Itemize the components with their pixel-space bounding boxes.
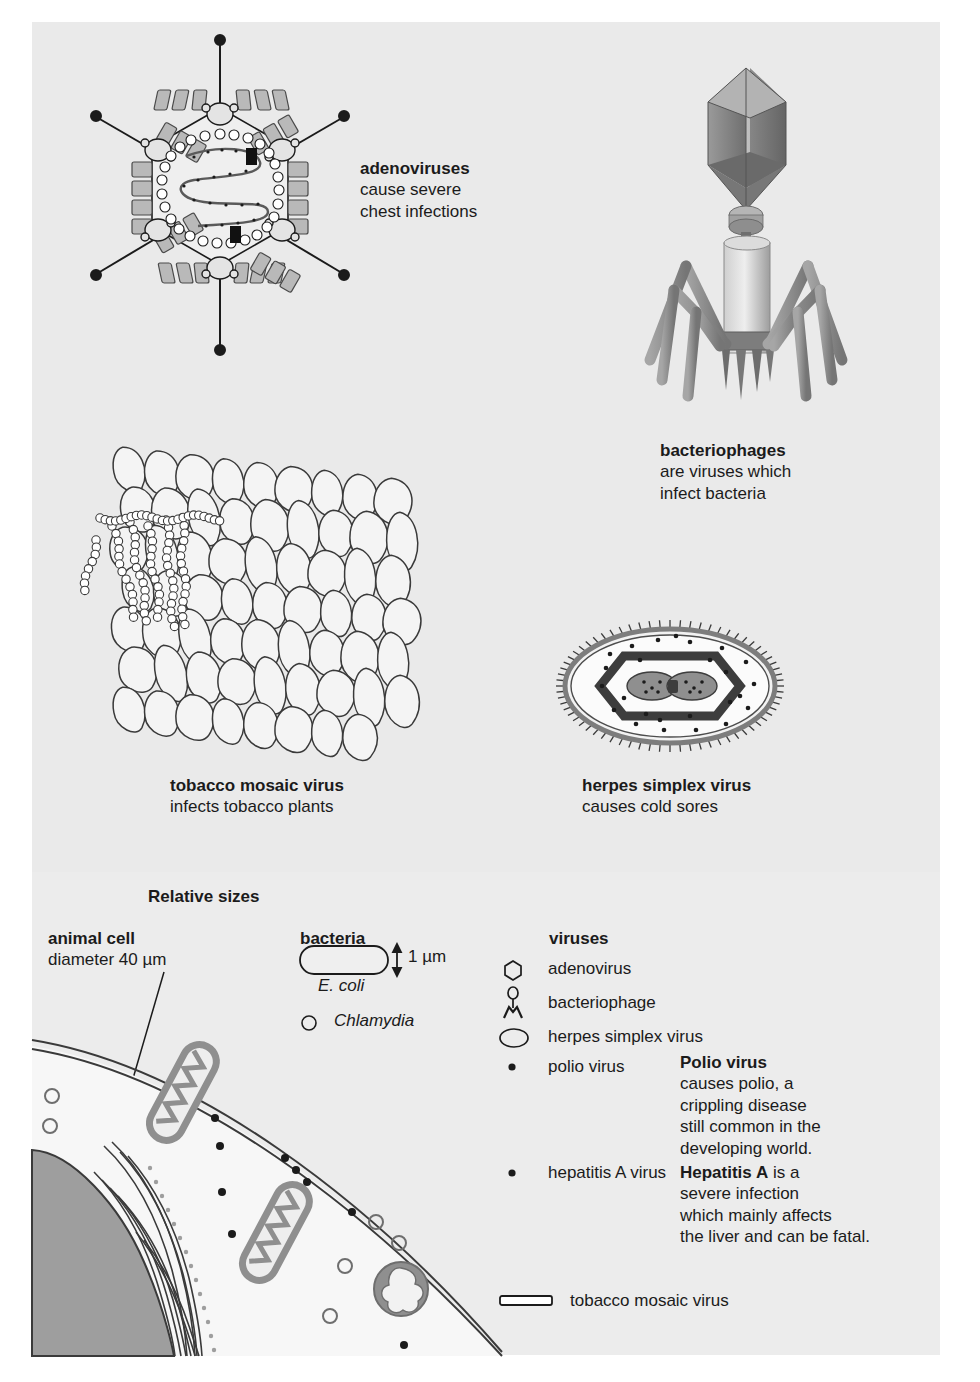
animal-cell-subtitle: diameter 40 µm [48,949,166,970]
viruses-heading: viruses [549,928,609,949]
hepatitis-note-line-1: severe infection [680,1183,930,1204]
polio-note-title: Polio virus [680,1052,900,1073]
adenovirus-label: adenoviruses cause severe chest infectio… [360,158,477,222]
hepatitis-note: Hepatitis A is a severe infection which … [680,1162,930,1248]
scale-arrow-icon [393,944,401,976]
adenovirus-desc-line-2: chest infections [360,201,477,222]
polio-note: Polio virus causes polio, a crippling di… [680,1052,900,1159]
dot-icon [508,1063,515,1070]
legend-bacteriophage-label: bacteriophage [548,992,656,1013]
herpes-simplex-virus-icon [540,610,800,770]
animal-cell-heading: animal cell [48,928,166,949]
dna-marker-lower [230,226,241,243]
polio-note-line-3: still common in the [680,1116,900,1137]
bacteriophage-figure [600,60,900,420]
polio-note-line-4: developing world. [680,1138,900,1159]
ecoli-label: E. coli [318,975,364,996]
legend-bacteriophage-icon-wrap [500,986,528,1020]
lysosome [374,1262,428,1316]
tobacco-mosaic-virus-icon [60,440,420,760]
hepatitis-note-first-line-rest: is a [768,1163,799,1182]
tobacco-mosaic-virus-desc-line-1: infects tobacco plants [170,796,344,817]
hexagon-icon [505,961,521,980]
legend-herpes-icon-wrap [498,1026,532,1050]
legend-tmv-label: tobacco mosaic virus [570,1290,729,1311]
hepatitis-note-line-2: which mainly affects [680,1205,930,1226]
tobacco-mosaic-virus-title: tobacco mosaic virus [170,775,344,796]
herpes-simplex-virus-figure [540,610,800,770]
bacteriophage-desc-line-2: infect bacteria [660,483,791,504]
hepatitis-note-first-line: Hepatitis A is a [680,1162,930,1183]
ellipse-icon [500,1029,528,1047]
legend-polio-icon-wrap [505,1060,519,1074]
adenovirus-title: adenoviruses [360,158,477,179]
figure-page: adenoviruses cause severe chest infectio… [0,0,980,1382]
herpes-simplex-virus-title: herpes simplex virus [582,775,751,796]
phage-glyph-icon [504,987,522,1018]
herpes-simplex-virus-desc-line-1: causes cold sores [582,796,751,817]
bacteriophage-title: bacteriophages [660,440,791,461]
legend-hepatitis-label: hepatitis A virus [548,1162,666,1183]
bacteriophage-desc-line-1: are viruses which [660,461,791,482]
rod-icon [500,1296,552,1305]
adenovirus-figure [70,30,370,360]
legend-adenovirus-icon-wrap [500,958,526,982]
relative-sizes-heading: Relative sizes [148,886,260,907]
tobacco-mosaic-virus-figure [60,440,420,760]
polio-note-line-2: crippling disease [680,1095,900,1116]
herpes-simplex-virus-label: herpes simplex virus causes cold sores [582,775,751,818]
animal-cell-label: animal cell diameter 40 µm [48,928,166,971]
legend-hepatitis-icon-wrap [505,1166,519,1180]
bacteriophage-label: bacteriophages are viruses which infect … [660,440,791,504]
adenovirus-desc-line-1: cause severe [360,179,477,200]
legend-herpes-label: herpes simplex virus [548,1026,703,1047]
hepatitis-note-title: Hepatitis A [680,1163,768,1182]
animal-cell-figure [32,1000,502,1356]
legend-tmv-icon-wrap [498,1292,558,1310]
legend-adenovirus-label: adenovirus [548,958,631,979]
polio-note-line-1: causes polio, a [680,1073,900,1094]
bacteriophage-icon [600,60,900,420]
dot-icon [508,1169,515,1176]
dna-marker-upper [246,148,257,165]
hepatitis-note-line-3: the liver and can be fatal. [680,1226,930,1247]
bacteria-scale-label: 1 µm [408,946,446,967]
animal-cell-diagram [32,1000,502,1356]
legend-polio-label: polio virus [548,1056,625,1077]
adenovirus-icon [70,30,370,360]
tobacco-mosaic-virus-label: tobacco mosaic virus infects tobacco pla… [170,775,344,818]
capsule-rod-icon [300,946,388,974]
